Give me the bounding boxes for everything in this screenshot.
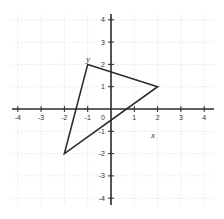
y-tick-label: -2 bbox=[99, 150, 105, 157]
x-axis-label: x bbox=[150, 130, 155, 140]
y-tick-label: -4 bbox=[99, 195, 105, 202]
coordinate-plane: -4-3-2-112344321-1-2-3-4 0 x y bbox=[0, 0, 224, 219]
y-tick-label: 1 bbox=[101, 83, 105, 90]
x-tick-label: -3 bbox=[38, 114, 44, 121]
x-tick-label: 3 bbox=[179, 114, 183, 121]
y-tick-label: -3 bbox=[99, 172, 105, 179]
x-tick-label: 4 bbox=[202, 114, 206, 121]
y-axis-label: y bbox=[85, 54, 90, 64]
y-tick-label: 2 bbox=[101, 61, 105, 68]
x-tick-label: -2 bbox=[61, 114, 67, 121]
y-tick-label: 3 bbox=[101, 39, 105, 46]
x-tick-label: 1 bbox=[132, 114, 136, 121]
x-tick-label: -4 bbox=[15, 114, 21, 121]
y-tick-label: 4 bbox=[101, 16, 105, 23]
origin-label: 0 bbox=[101, 114, 105, 121]
x-tick-label: -1 bbox=[85, 114, 91, 121]
x-tick-label: 2 bbox=[156, 114, 160, 121]
